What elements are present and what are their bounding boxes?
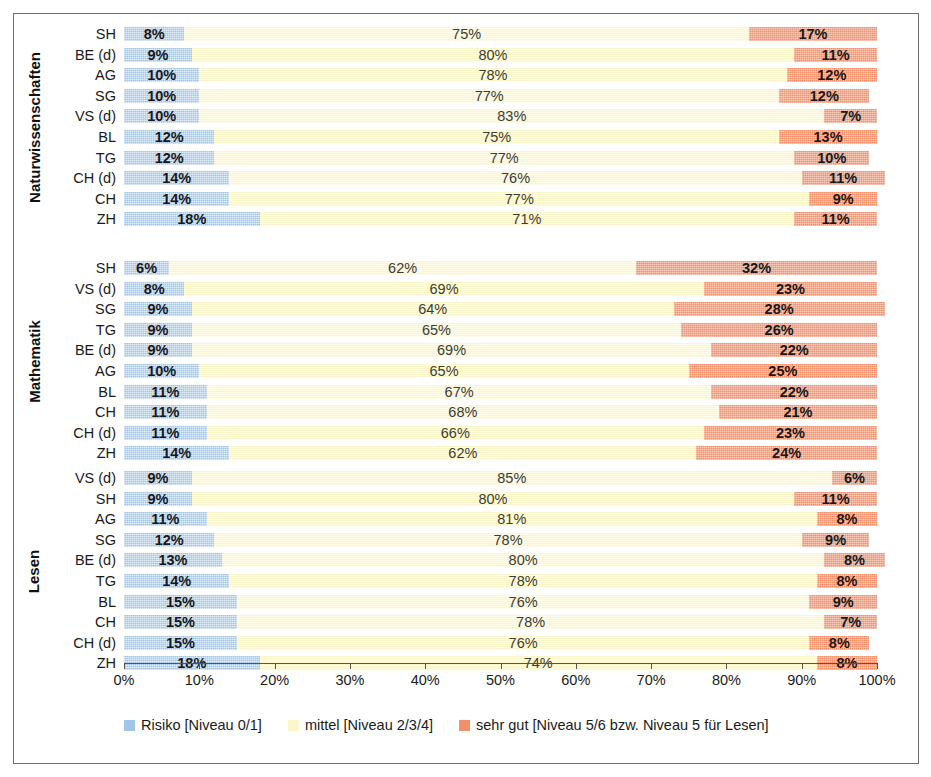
bar-segment-sehr_gut xyxy=(779,89,869,103)
category-label: CH xyxy=(95,612,116,633)
bar-row: 11%68%21% xyxy=(124,402,877,423)
bar-segment-mittel xyxy=(199,364,688,378)
bar-segment-risiko xyxy=(124,574,229,588)
bar-row: 14%78%8% xyxy=(124,571,877,592)
legend-label: Risiko [Niveau 0/1] xyxy=(141,717,262,733)
bar-segment-risiko xyxy=(124,636,237,650)
x-tick-10 xyxy=(199,663,200,669)
bar-row: 15%76%9% xyxy=(124,592,877,613)
bar-segment-sehr_gut xyxy=(824,109,877,123)
bar-segment-risiko xyxy=(124,595,237,609)
bar-segment-mittel xyxy=(237,636,809,650)
category-label: SH xyxy=(96,258,116,279)
bar-segment-mittel xyxy=(184,27,749,41)
bar-row: 12%75%13% xyxy=(124,127,877,148)
bar-segment-risiko xyxy=(124,615,237,629)
bar-segment-sehr_gut xyxy=(704,282,877,296)
bar-segment-risiko xyxy=(124,471,192,485)
bar-row: 9%80%11% xyxy=(124,489,877,510)
x-tick-label: 40% xyxy=(390,672,460,688)
bar-segment-sehr_gut xyxy=(817,512,877,526)
bar-segment-sehr_gut xyxy=(809,595,877,609)
category-label: VS (d) xyxy=(75,468,116,489)
legend-label: mittel [Niveau 2/3/4] xyxy=(305,717,433,733)
bar-segment-sehr_gut xyxy=(689,364,877,378)
section-title-naturwissenschaften: Naturwissenschaften xyxy=(20,24,48,230)
category-label: BE (d) xyxy=(75,550,116,571)
category-label: VS (d) xyxy=(75,279,116,300)
bar-segment-mittel xyxy=(192,471,832,485)
bar-segment-mittel xyxy=(192,343,712,357)
category-label: SG xyxy=(95,299,116,320)
category-label: ZH xyxy=(97,653,116,674)
bar-row: 11%81%8% xyxy=(124,509,877,530)
section-title-mathematik: Mathematik xyxy=(20,258,48,464)
legend-swatch-icon xyxy=(459,720,470,731)
legend: Risiko [Niveau 0/1]mittel [Niveau 2/3/4]… xyxy=(124,714,769,736)
bar-segment-mittel xyxy=(222,553,824,567)
bar-segment-mittel xyxy=(207,405,719,419)
chart-figure: Naturwissenschaften Mathematik Lesen SHB… xyxy=(0,0,931,777)
category-label: BE (d) xyxy=(75,340,116,361)
category-label: ZH xyxy=(97,209,116,230)
section-title-mathematik-text: Mathematik xyxy=(26,320,43,403)
x-tick-label: 30% xyxy=(315,672,385,688)
bar-segment-mittel xyxy=(207,512,817,526)
bar-row: 9%69%22% xyxy=(124,340,877,361)
legend-item-2[interactable]: sehr gut [Niveau 5/6 bzw. Niveau 5 für L… xyxy=(459,717,769,733)
category-label: AG xyxy=(95,361,116,382)
bar-segment-risiko xyxy=(124,492,192,506)
legend-item-0[interactable]: Risiko [Niveau 0/1] xyxy=(124,717,262,733)
bar-row: 9%80%11% xyxy=(124,45,877,66)
category-label: CH (d) xyxy=(73,633,116,654)
bar-row: 18%71%11% xyxy=(124,209,877,230)
bar-segment-mittel xyxy=(229,192,809,206)
bar-segment-risiko xyxy=(124,405,207,419)
bar-segment-sehr_gut xyxy=(794,48,877,62)
bar-row: 12%77%10% xyxy=(124,148,877,169)
bar-row: 12%78%9% xyxy=(124,530,877,551)
bar-segment-sehr_gut xyxy=(817,574,877,588)
bar-segment-mittel xyxy=(207,385,712,399)
bar-segment-risiko xyxy=(124,151,214,165)
bar-row: 10%83%7% xyxy=(124,106,877,127)
bar-segment-mittel xyxy=(169,261,636,275)
bar-segment-sehr_gut xyxy=(779,130,877,144)
bar-segment-risiko xyxy=(124,171,229,185)
bar-segment-risiko xyxy=(124,48,192,62)
category-label: CH (d) xyxy=(73,168,116,189)
bar-segment-sehr_gut xyxy=(809,636,869,650)
bar-segment-risiko xyxy=(124,385,207,399)
bar-row: 10%65%25% xyxy=(124,361,877,382)
bar-segment-mittel xyxy=(199,89,779,103)
bar-segment-sehr_gut xyxy=(802,171,885,185)
bar-segment-risiko xyxy=(124,109,199,123)
category-label: SG xyxy=(95,86,116,107)
category-label: ZH xyxy=(97,443,116,464)
bar-row: 14%62%24% xyxy=(124,443,877,464)
bar-segment-sehr_gut xyxy=(711,385,877,399)
category-label: TG xyxy=(96,571,116,592)
category-label: TG xyxy=(96,320,116,341)
category-label: VS (d) xyxy=(75,106,116,127)
bar-row: 15%76%8% xyxy=(124,633,877,654)
bar-row: 10%78%12% xyxy=(124,65,877,86)
bar-segment-risiko xyxy=(124,553,222,567)
bar-segment-sehr_gut xyxy=(711,343,877,357)
section-title-naturwissenschaften-text: Naturwissenschaften xyxy=(26,52,43,203)
category-label: SH xyxy=(96,24,116,45)
panel-naturwissenschaften: SHBE (d)AGSGVS (d)BLTGCH (d)CHZH8%75%17%… xyxy=(124,24,877,230)
x-tick-70 xyxy=(651,663,652,669)
category-label: BL xyxy=(98,382,116,403)
bar-segment-mittel xyxy=(192,48,794,62)
section-title-lesen: Lesen xyxy=(20,468,48,674)
bar-row: 8%69%23% xyxy=(124,279,877,300)
legend-item-1[interactable]: mittel [Niveau 2/3/4] xyxy=(288,717,433,733)
bar-segment-sehr_gut xyxy=(674,302,885,316)
bar-segment-sehr_gut xyxy=(802,533,870,547)
bar-segment-risiko xyxy=(124,343,192,357)
bar-segment-risiko xyxy=(124,89,199,103)
x-tick-0 xyxy=(124,663,125,669)
bar-row: 14%76%11% xyxy=(124,168,877,189)
bar-segment-sehr_gut xyxy=(636,261,877,275)
